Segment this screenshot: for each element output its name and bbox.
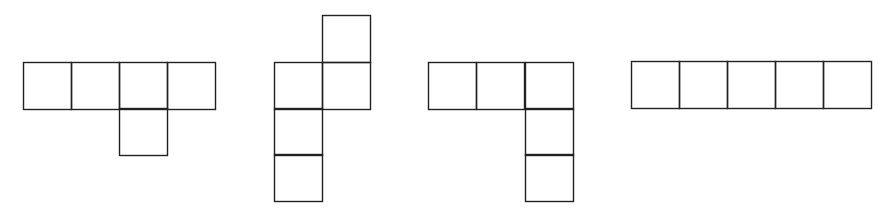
unit-square xyxy=(824,62,872,109)
unit-square xyxy=(275,109,323,156)
unit-square xyxy=(72,63,120,110)
figure-1 xyxy=(24,63,216,156)
unit-square xyxy=(275,63,323,110)
unit-square xyxy=(728,62,776,109)
figure-2 xyxy=(275,16,371,202)
unit-square xyxy=(429,63,477,110)
pentomino-diagram xyxy=(0,0,887,211)
unit-square xyxy=(477,63,525,110)
unit-square xyxy=(526,63,574,110)
unit-square xyxy=(323,16,371,63)
unit-square xyxy=(24,63,72,110)
unit-square xyxy=(120,63,168,110)
unit-square xyxy=(776,62,824,109)
unit-square xyxy=(323,63,371,110)
figure-3 xyxy=(429,63,574,202)
unit-square xyxy=(526,109,574,156)
unit-square xyxy=(120,109,168,156)
unit-square xyxy=(168,63,216,110)
unit-square xyxy=(632,62,680,109)
unit-square xyxy=(526,155,574,202)
unit-square xyxy=(275,155,323,202)
unit-square xyxy=(680,62,728,109)
figure-4 xyxy=(632,62,872,109)
